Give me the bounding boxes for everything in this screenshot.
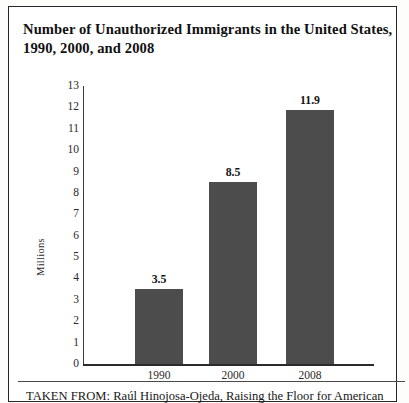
bar-chart: 131211109876543210 Millions 3.519908.520… [9,73,409,373]
y-axis-tick-label: 1 [55,337,79,349]
x-axis-line [83,364,374,366]
x-axis-tick-label: 2008 [266,369,354,381]
y-axis-tick-label: 13 [55,80,79,92]
bar [209,182,257,364]
y-axis-tick-label: 8 [55,187,79,199]
bar-value-label: 8.5 [189,166,277,178]
y-axis-tick-label: 7 [55,209,79,221]
y-axis-tick-label: 10 [55,144,79,156]
figure-page: Number of Unauthorized Immigrants in the… [0,0,409,403]
bar [286,110,334,364]
figure-frame: Number of Unauthorized Immigrants in the… [8,6,397,402]
y-axis-tick-label: 12 [55,102,79,114]
bar-value-label: 3.5 [115,273,203,285]
source-caption: TAKEN FROM: Raúl Hinojosa-Ojeda, Raising… [26,388,402,403]
page-title: Number of Unauthorized Immigrants in the… [23,20,395,57]
y-axis-tick-label: 11 [55,123,79,135]
y-axis-title: Millions [35,238,46,276]
y-axis-tick-label: 9 [55,166,79,178]
bar-value-label: 11.9 [266,94,354,106]
y-axis-tick-label: 5 [55,251,79,263]
x-axis-tick-label: 2000 [189,369,277,381]
y-axis-tick-label: 2 [55,315,79,327]
y-axis-tick-label: 6 [55,230,79,242]
y-axis-tick-label: 0 [55,358,79,370]
caption-divider [18,381,405,382]
bar [135,289,183,364]
y-axis-tick-label: 4 [55,273,79,285]
plot-area [83,86,374,364]
y-axis-tick-labels: 131211109876543210 [53,86,79,364]
y-axis-tick-label: 3 [55,294,79,306]
